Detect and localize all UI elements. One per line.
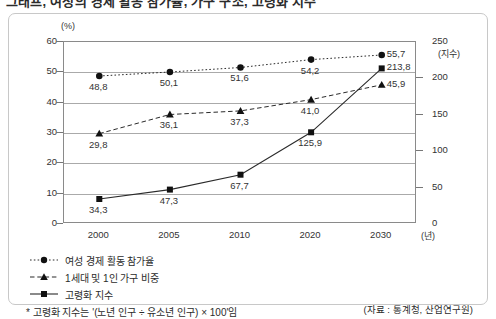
right-axis-unit-label: (지수) xyxy=(438,47,460,60)
left-axis-tick-label: 30 xyxy=(39,126,57,137)
right-axis-tick-mark xyxy=(416,114,423,115)
data-value-label: 47,3 xyxy=(160,195,179,206)
left-axis-tick-mark xyxy=(56,71,63,72)
data-value-label: 55,7 xyxy=(387,48,406,59)
data-value-label: 37,3 xyxy=(230,116,249,127)
legend-marker-circle-icon xyxy=(29,254,59,266)
data-point-marker[interactable] xyxy=(308,56,315,63)
left-axis-tick-mark xyxy=(56,193,63,194)
legend-item-1[interactable]: 여성 경제 활동 참가율 xyxy=(29,252,329,268)
right-axis-tick-label: 200 xyxy=(432,71,448,82)
right-axis-tick-label: 0 xyxy=(432,217,437,228)
right-axis-tick-mark xyxy=(416,187,423,188)
data-value-label: 45,9 xyxy=(387,78,406,89)
data-value-label: 67,7 xyxy=(230,180,249,191)
legend-item-3[interactable]: 고령화 지수 xyxy=(29,286,329,302)
data-point-marker[interactable] xyxy=(167,69,174,76)
data-value-label: 34,3 xyxy=(89,204,108,215)
data-value-label: 48,8 xyxy=(89,81,108,92)
x-axis-tick-label: 2030 xyxy=(370,229,391,240)
data-point-marker[interactable] xyxy=(308,129,314,135)
data-value-label: 51,6 xyxy=(230,72,249,83)
data-point-marker[interactable] xyxy=(237,64,244,71)
left-axis-tick-label: 10 xyxy=(39,187,57,198)
left-axis-tick-label: 20 xyxy=(39,156,57,167)
right-axis-tick-mark xyxy=(416,150,423,151)
data-point-marker[interactable] xyxy=(307,96,315,103)
data-point-marker[interactable] xyxy=(378,81,386,88)
source-note: (자료 : 통계청, 산업연구원) xyxy=(363,302,473,316)
left-axis-unit-label: (%) xyxy=(61,21,75,31)
figure-title-strip: 그래프, 여성의 경제 활동 참가율, 가구 구조, 고령화 지수 xyxy=(0,0,496,11)
data-value-label: 50,1 xyxy=(160,77,179,88)
left-axis-tick-mark xyxy=(56,223,63,224)
page-title: 그래프, 여성의 경제 활동 참가율, 가구 구조, 고령화 지수 xyxy=(6,0,316,10)
x-axis-tick-label: 2010 xyxy=(229,229,250,240)
legend-marker-square-icon xyxy=(29,288,59,300)
x-axis-tick-label: 2020 xyxy=(300,229,321,240)
data-point-marker[interactable] xyxy=(378,52,385,59)
left-axis-tick-label: 0 xyxy=(39,217,57,228)
left-axis-tick-label: 50 xyxy=(39,65,57,76)
data-point-marker[interactable] xyxy=(96,196,102,202)
series-layer xyxy=(64,42,417,224)
data-value-label: 36,1 xyxy=(160,119,179,130)
legend-label: 고령화 지수 xyxy=(65,287,113,302)
right-axis-tick-mark xyxy=(416,77,423,78)
data-value-label: 41,0 xyxy=(301,105,320,116)
right-axis-tick-label: 150 xyxy=(432,108,448,119)
legend: 여성 경제 활동 참가율1세대 및 1인 가구 비중고령화 지수 xyxy=(29,252,329,303)
data-point-marker[interactable] xyxy=(379,65,385,71)
data-value-label: 125,9 xyxy=(298,137,322,148)
left-axis-tick-mark xyxy=(56,102,63,103)
data-point-marker[interactable] xyxy=(167,187,173,193)
data-point-marker[interactable] xyxy=(238,172,244,178)
legend-label: 여성 경제 활동 참가율 xyxy=(65,253,154,268)
right-axis-tick-label: 100 xyxy=(432,144,448,155)
figure-card: (%) (지수) (년) 0102030405060 0501001502002… xyxy=(8,13,488,305)
left-axis-tick-mark xyxy=(56,41,63,42)
left-axis-tick-mark xyxy=(56,162,63,163)
legend-label: 1세대 및 1인 가구 비중 xyxy=(65,270,159,285)
data-point-marker[interactable] xyxy=(96,73,103,80)
data-value-label: 213,8 xyxy=(387,61,411,72)
right-axis-tick-label: 50 xyxy=(432,181,443,192)
x-axis-unit-label: (년) xyxy=(421,229,435,242)
x-axis-tick-label: 2005 xyxy=(158,229,179,240)
left-axis-tick-label: 60 xyxy=(39,35,57,46)
plot-area xyxy=(63,41,416,223)
data-value-label: 29,8 xyxy=(89,139,108,150)
right-axis-tick-label: 250 xyxy=(432,35,448,46)
left-axis-tick-mark xyxy=(56,132,63,133)
footnote: * 고령화 지수는 '(노년 인구 ÷ 유소년 인구) × 100'임 xyxy=(26,304,237,319)
legend-marker-triangle-icon xyxy=(29,271,59,283)
data-value-label: 54,2 xyxy=(301,65,320,76)
legend-item-2[interactable]: 1세대 및 1인 가구 비중 xyxy=(29,269,329,285)
left-axis-tick-label: 40 xyxy=(39,96,57,107)
x-axis-tick-label: 2000 xyxy=(88,229,109,240)
